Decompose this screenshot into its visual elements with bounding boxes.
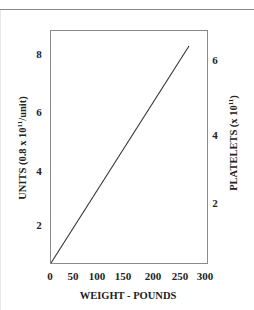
- x-tick: 300: [197, 270, 214, 282]
- y-tick: 2: [36, 219, 42, 231]
- plot-frame: [51, 31, 208, 264]
- x-tick: 0: [47, 270, 53, 282]
- x-tick: 150: [115, 270, 132, 282]
- x-tick: 50: [68, 270, 80, 282]
- x-axis-label: WEIGHT - POUNDS: [80, 290, 177, 301]
- data-line: [51, 46, 189, 263]
- x-tick: 200: [145, 270, 162, 282]
- x-tick: 250: [172, 270, 189, 282]
- y2-axis-label: PLATELETS (x 1011): [227, 95, 240, 191]
- y-tick: 8: [36, 48, 42, 60]
- y2-tick: 2: [212, 197, 218, 209]
- y2-tick: 6: [212, 54, 218, 66]
- x-tick: 100: [89, 270, 106, 282]
- y-axis-label: UNITS (0.8 x 1011/unit): [16, 96, 29, 200]
- chart: 8 6 4 2 6 4 2 0 50 100 150 200 250 300 W…: [0, 0, 254, 310]
- y-tick: 4: [36, 165, 42, 177]
- y-tick: 6: [36, 106, 42, 118]
- y2-tick: 4: [212, 129, 218, 141]
